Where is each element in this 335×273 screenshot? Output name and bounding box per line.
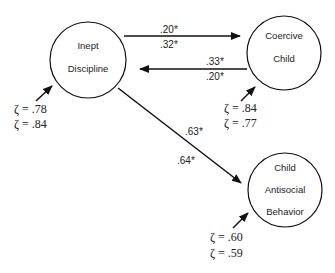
arrow-inept-to-antisocial <box>118 88 241 183</box>
path-coefficient: .63* <box>185 126 203 137</box>
path-coefficient: .20* <box>160 24 178 35</box>
node-label: Inept <box>77 40 98 51</box>
disturbance-arrow-coercive <box>241 87 255 101</box>
disturbance-arrow-inept <box>36 86 52 101</box>
node-label: Antisocial <box>265 184 306 195</box>
path-coefficient: .32* <box>160 39 178 50</box>
disturbance-value: ζ = .77 <box>224 116 257 131</box>
disturbance-value: ζ = .84 <box>14 117 47 132</box>
path-diagram: Inept Discipline Coercive Child Child An… <box>0 0 335 273</box>
disturbance-arrow-antisocial <box>233 213 248 228</box>
path-coefficient: .20* <box>206 71 224 82</box>
node-label: Child <box>273 53 295 64</box>
path-coefficient: .33* <box>206 56 224 67</box>
disturbance-value: ζ = .60 <box>210 230 243 245</box>
node-label: Coercive <box>265 30 303 41</box>
disturbance-value: ζ = .59 <box>210 246 243 261</box>
node-label: Behavior <box>266 206 304 217</box>
node-label: Discipline <box>68 63 109 74</box>
disturbance-value: ζ = .84 <box>224 101 257 116</box>
node-label: Child <box>274 162 296 173</box>
disturbance-value: ζ = .78 <box>14 102 47 117</box>
path-coefficient: .64* <box>177 155 195 166</box>
node-inept-discipline <box>50 22 126 98</box>
